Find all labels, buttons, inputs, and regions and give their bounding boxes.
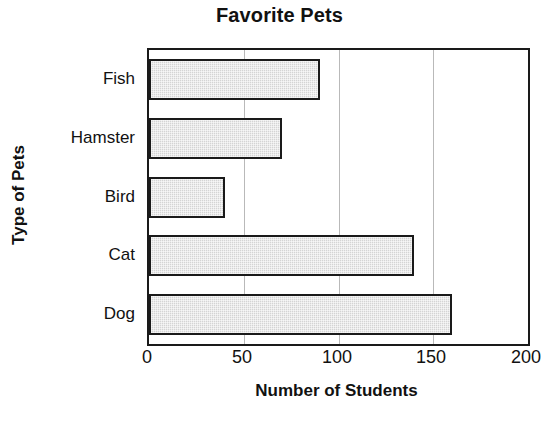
x-tick-label-0: 0 xyxy=(142,348,152,366)
y-tick-label-dog: Dog xyxy=(104,305,135,322)
y-tick-label-cat: Cat xyxy=(109,246,135,263)
bar-chart: Favorite Pets Type of Pets FishHamsterBi… xyxy=(0,0,559,429)
x-tick-label-150: 150 xyxy=(416,348,446,366)
bar-cat xyxy=(149,235,414,276)
x-tick-label-100: 100 xyxy=(322,348,352,366)
plot-area xyxy=(147,48,530,346)
chart-title: Favorite Pets xyxy=(0,4,559,27)
x-axis-title: Number of Students xyxy=(147,381,526,401)
y-axis-title: Type of Pets xyxy=(9,145,29,245)
bar-fish xyxy=(149,59,320,100)
bar-bird xyxy=(149,177,225,218)
x-axis-tick-labels: 050100150200 xyxy=(147,348,526,372)
y-tick-label-bird: Bird xyxy=(105,188,135,205)
x-tick-label-200: 200 xyxy=(511,348,541,366)
bar-hamster xyxy=(149,118,282,159)
x-tick-label-50: 50 xyxy=(232,348,252,366)
y-tick-label-hamster: Hamster xyxy=(71,129,135,146)
plot-inner xyxy=(149,50,528,344)
y-axis-title-container: Type of Pets xyxy=(6,48,32,342)
y-axis-tick-labels: FishHamsterBirdCatDog xyxy=(36,48,143,342)
bar-dog xyxy=(149,294,452,335)
y-tick-label-fish: Fish xyxy=(103,70,135,87)
